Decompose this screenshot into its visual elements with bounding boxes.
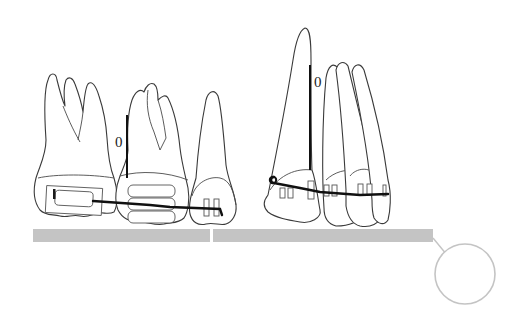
dental-diagram: 0 0 <box>0 0 520 319</box>
canine-tooth <box>189 92 236 225</box>
gap-label-right: 0 <box>314 74 322 90</box>
callout-magnifier-circle <box>433 238 495 304</box>
occlusal-base-bar <box>33 229 433 242</box>
gap-label-left: 0 <box>115 134 123 150</box>
